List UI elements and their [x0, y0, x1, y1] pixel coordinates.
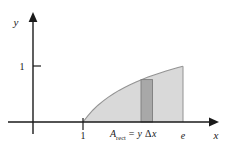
riemann-rectangle	[141, 80, 153, 122]
rect-area-formula: Arect=yΔx	[109, 128, 157, 141]
y-axis-label: y	[13, 16, 19, 28]
y-axis-arrowhead	[29, 12, 38, 22]
y-tick-label-1: 1	[20, 61, 25, 72]
x-axis-label: x	[213, 129, 219, 141]
x-tick-label-1: 1	[81, 130, 86, 141]
formula-equals: =	[129, 128, 135, 139]
shaded-area-region	[83, 66, 183, 122]
x-tick-label-e: e	[181, 130, 186, 141]
figure-container: y x 1 1 e Arect=yΔx	[0, 0, 229, 149]
x-axis-arrowhead	[209, 118, 219, 127]
formula-width-symbol: x	[151, 128, 157, 139]
area-under-curve-figure: y x 1 1 e Arect=yΔx	[0, 0, 229, 149]
formula-height-symbol: y	[137, 128, 143, 139]
formula-area-subscript: rect	[116, 134, 126, 141]
svg-text:Arect=yΔx: Arect=yΔx	[109, 128, 157, 141]
formula-delta-symbol: Δ	[145, 128, 152, 139]
